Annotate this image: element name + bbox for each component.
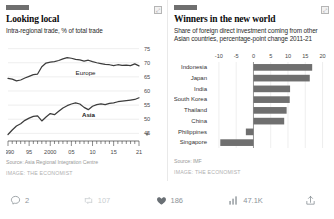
chart-title: Looking local <box>6 14 161 25</box>
tweet-media-card: Looking local Intra-regional trade, % of… <box>0 0 334 219</box>
comment-icon <box>10 195 21 206</box>
repost-button[interactable]: 107 <box>83 195 156 206</box>
economist-tag <box>174 5 197 10</box>
x-tick-label: 15 <box>302 53 308 59</box>
bar-category-label: China <box>191 118 207 124</box>
bar-thailand <box>253 107 286 114</box>
x-tick-label: 21 <box>136 149 142 155</box>
bar-category-label: Japan <box>191 75 207 81</box>
bar-philippines <box>246 129 254 136</box>
y-tick-label: 65 <box>144 74 150 80</box>
bar-category-label: South Korea <box>174 96 208 102</box>
x-tick-label: 15 <box>111 149 117 155</box>
image-credit: IMAGE: THE ECONOMIST <box>174 169 328 175</box>
reply-count: 2 <box>25 196 29 205</box>
bar-china <box>253 118 284 125</box>
retweet-icon <box>83 195 94 206</box>
chart-subtitle: Share of foreign direct investment comin… <box>174 27 328 43</box>
line-chart: 45505560657075EuropeAsia1990952000051015… <box>6 39 161 157</box>
line-chart-svg: 45505560657075EuropeAsia1990952000051015… <box>6 39 161 157</box>
media-row: Looking local Intra-regional trade, % of… <box>0 0 334 181</box>
x-tick-label: 1990 <box>6 149 14 155</box>
y-tick-label: 50 <box>144 116 150 122</box>
bar-category-label: Thailand <box>184 107 207 113</box>
chart-card-looking-local[interactable]: Looking local Intra-regional trade, % of… <box>0 0 167 181</box>
x-tick-label: -5 <box>234 53 239 59</box>
y-tick-label: 70 <box>144 60 150 66</box>
views-button[interactable]: 47.1K <box>228 195 301 206</box>
views-count: 47.1K <box>243 196 263 205</box>
x-tick-label: 0 <box>252 53 255 59</box>
bar-indonesia <box>253 64 312 71</box>
x-tick-label: 95 <box>26 149 32 155</box>
heart-icon <box>156 195 167 206</box>
y-tick-label: 60 <box>144 88 150 94</box>
line-series-europe <box>8 58 139 81</box>
x-tick-label: 2000 <box>44 149 56 155</box>
like-button[interactable]: 186 <box>156 195 229 206</box>
bar-chart-svg: -10-505101520IndonesiaJapanIndiaSouth Ko… <box>174 48 330 156</box>
x-tick-label: 10 <box>285 53 291 59</box>
bar-south-korea <box>253 96 289 103</box>
reply-button[interactable]: 2 <box>10 195 83 206</box>
bar-japan <box>253 75 309 82</box>
tweet-action-bar: 2 107 186 47.1K <box>0 181 334 219</box>
chart-title: Winners in the new world <box>174 14 328 25</box>
economist-tag <box>6 5 29 10</box>
like-count: 186 <box>171 196 184 205</box>
y-tick-label: 55 <box>144 102 150 108</box>
x-tick-label: 05 <box>68 149 74 155</box>
chart-source: Source: Asia Regional Integration Centre <box>6 159 161 165</box>
expand-icon[interactable]: ⤢ <box>321 6 329 14</box>
x-tick-label: 10 <box>89 149 95 155</box>
bar-category-label: India <box>194 86 208 92</box>
chart-source: Source: IMF <box>174 158 328 164</box>
analytics-icon <box>228 195 239 206</box>
bar-category-label: Indonesia <box>181 64 208 70</box>
y-tick-label: 75 <box>144 46 150 52</box>
bar-chart: -10-505101520IndonesiaJapanIndiaSouth Ko… <box>174 48 330 156</box>
expand-icon[interactable]: ⤢ <box>154 6 162 14</box>
x-tick-label: -10 <box>215 53 223 59</box>
series-label-asia: Asia <box>82 111 96 118</box>
bar-india <box>253 86 290 93</box>
share-button[interactable] <box>305 195 320 206</box>
share-icon <box>305 195 316 206</box>
chart-subtitle: Intra-regional trade, % of total trade <box>6 27 161 35</box>
line-series-asia <box>8 98 139 135</box>
image-credit: IMAGE: THE ECONOMIST <box>6 170 161 176</box>
chart-card-winners[interactable]: Winners in the new world Share of foreig… <box>167 0 334 181</box>
repost-count: 107 <box>98 196 111 205</box>
bar-category-label: Singapore <box>180 139 208 145</box>
series-label-europe: Europe <box>76 69 97 76</box>
x-tick-label: 20 <box>319 53 325 59</box>
bar-category-label: Philippines <box>178 129 207 135</box>
bar-singapore <box>220 139 253 146</box>
x-tick-label: 5 <box>269 53 272 59</box>
